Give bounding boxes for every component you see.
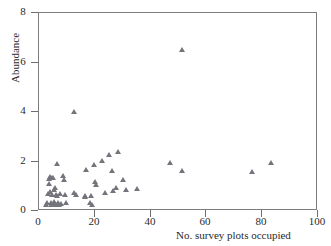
x-tick-label-100: 100 [302,215,331,227]
y-tick-6 [31,62,38,63]
data-point [71,109,77,114]
data-point [62,192,68,197]
x-tick-label-40: 40 [135,215,165,227]
y-axis-title: Abundance [9,13,21,103]
data-point [73,192,79,197]
y-tick-label-0: 0 [4,204,26,215]
data-point [63,200,69,205]
data-point [93,182,99,187]
data-point [115,149,121,154]
data-point [179,168,185,173]
data-point [179,47,185,52]
data-point [249,169,255,174]
data-point [52,185,58,190]
x-axis-title: No. survey plots occupied [176,229,291,241]
x-tick-label-60: 60 [190,215,220,227]
data-point [83,167,89,172]
data-point [61,177,67,182]
x-tick-label-0: 0 [23,215,53,227]
data-point [102,190,108,195]
x-tick-label-20: 20 [79,215,109,227]
data-point [123,187,129,192]
data-point [167,160,173,165]
x-tick-label-80: 80 [246,215,276,227]
data-point [91,162,97,167]
data-point [120,177,126,182]
data-point [109,168,115,173]
data-point [134,186,140,191]
y-tick-0 [31,210,38,211]
data-point [113,185,119,190]
y-tick-label-4: 4 [4,105,26,116]
data-point [88,193,94,198]
y-tick-label-2: 2 [4,155,26,166]
data-point [106,152,112,157]
y-tick-8 [31,12,38,13]
data-point [99,158,105,163]
data-point [89,202,95,207]
scatter-plot-figure: 02468 020406080100 Abundance No. survey … [0,0,331,246]
data-point [54,161,60,166]
y-tick-4 [31,111,38,112]
data-point [46,181,52,186]
data-point [50,175,56,180]
y-tick-2 [31,161,38,162]
data-point [268,160,274,165]
plot-area [38,12,317,210]
